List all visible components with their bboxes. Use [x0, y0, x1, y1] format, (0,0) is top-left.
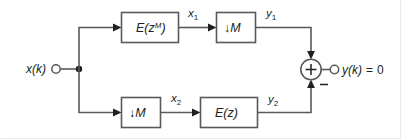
arrowhead-into-bottom-downsampler [113, 109, 122, 117]
input-label: x(k) [25, 62, 46, 76]
output-terminal-node [330, 65, 338, 73]
wire-y1-to-adder [256, 28, 312, 53]
arrowhead-into-top-downsampler [208, 24, 217, 32]
block-bottom-filter-label-base: E(z [215, 106, 235, 120]
block-top-filter-label-base: E(z [136, 21, 156, 35]
block-bottom-filter-label: E(z) [215, 106, 238, 120]
signal-label-y1: y1 [265, 7, 277, 22]
signal-flow-diagram: x(k) E(zM) x1 ↓M y1 ↓M x2 [0, 0, 401, 139]
output-label: y(k)=0 [341, 63, 384, 77]
block-top-downsampler-label: ↓M [224, 21, 241, 35]
output-label-equals: = [366, 63, 373, 77]
arrowhead-into-adder-top [307, 51, 315, 60]
block-bottom-downsampler-label: ↓M [129, 106, 146, 120]
signal-label-x2-sub: 2 [177, 98, 182, 107]
arrowhead-into-adder-bottom [307, 80, 315, 89]
wire-split-to-top-filter [79, 28, 114, 70]
signal-label-x1: x1 [187, 7, 199, 22]
arrowhead-into-bottom-filter [192, 109, 201, 117]
wire-y2-to-adder [258, 87, 312, 113]
output-label-expression: y(k) [341, 63, 362, 77]
signal-label-x2: x2 [170, 92, 182, 107]
block-diagram-canvas: x(k) E(zM) x1 ↓M y1 ↓M x2 [0, 0, 401, 139]
signal-label-x1-sub: 1 [194, 13, 199, 22]
output-label-value: 0 [377, 63, 384, 77]
block-top-filter-label: E(zM) [136, 21, 166, 36]
input-terminal-node [52, 65, 60, 73]
signal-label-y2: y2 [267, 93, 279, 108]
arrowhead-into-top-filter [113, 24, 122, 32]
signal-label-y2-sub: 2 [274, 99, 279, 108]
wire-split-to-bottom-downsampler [79, 69, 114, 113]
signal-label-y1-sub: 1 [272, 13, 277, 22]
